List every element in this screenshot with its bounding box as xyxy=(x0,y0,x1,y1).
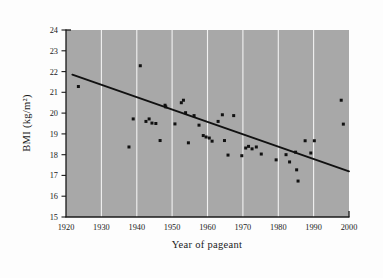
data-point xyxy=(313,139,316,142)
data-point xyxy=(187,141,190,144)
data-point xyxy=(173,122,176,125)
data-point xyxy=(260,153,263,156)
data-point xyxy=(154,122,157,125)
y-tick-label-19: 19 xyxy=(50,130,58,139)
y-tick-label-18: 18 xyxy=(50,151,58,160)
y-tick-label-23: 23 xyxy=(50,47,58,56)
data-point xyxy=(198,124,201,127)
data-point xyxy=(164,105,167,108)
data-point xyxy=(340,99,343,102)
x-axis-tick-labels: 1920 1930 1940 1950 1960 1970 1980 1990 … xyxy=(58,223,358,232)
data-point xyxy=(304,139,307,142)
data-point xyxy=(208,137,211,140)
data-point xyxy=(150,122,153,125)
data-point xyxy=(240,154,243,157)
data-point xyxy=(247,145,250,148)
x-tick-label-1920: 1920 xyxy=(58,223,75,232)
data-point xyxy=(77,85,80,88)
data-point xyxy=(139,64,142,67)
y-tick-label-20: 20 xyxy=(50,109,58,118)
x-tick-label-1960: 1960 xyxy=(199,223,216,232)
x-axis-title: Year of pageant xyxy=(172,239,243,250)
y-tick-label-16: 16 xyxy=(50,192,58,201)
data-point xyxy=(211,140,214,143)
data-point xyxy=(202,134,205,137)
scatter-chart: 24 23 22 21 20 19 18 17 16 15 1920 1930 … xyxy=(0,0,383,278)
data-point xyxy=(144,120,147,123)
y-tick-label-24: 24 xyxy=(50,26,59,35)
data-point xyxy=(342,123,345,126)
data-point xyxy=(232,114,235,117)
data-point xyxy=(275,158,278,161)
data-point xyxy=(127,145,130,148)
data-point xyxy=(244,147,247,150)
data-point xyxy=(217,120,220,123)
figure-container: 24 23 22 21 20 19 18 17 16 15 1920 1930 … xyxy=(0,0,383,278)
x-tick-label-1950: 1950 xyxy=(164,223,181,232)
data-point xyxy=(255,145,258,148)
x-tick-label-2000: 2000 xyxy=(341,223,358,232)
y-tick-label-15: 15 xyxy=(50,213,58,222)
data-point xyxy=(221,113,224,116)
data-point xyxy=(205,136,208,139)
y-tick-label-17: 17 xyxy=(50,171,58,180)
data-point xyxy=(182,99,185,102)
data-point xyxy=(297,180,300,183)
y-axis-title: BMI (kg/m²) xyxy=(21,94,33,152)
x-tick-label-1940: 1940 xyxy=(129,223,146,232)
data-point xyxy=(285,153,288,156)
data-point xyxy=(148,117,151,120)
data-point xyxy=(288,160,291,163)
y-tick-label-21: 21 xyxy=(50,88,58,97)
data-point xyxy=(294,151,297,154)
x-tick-label-1970: 1970 xyxy=(235,223,252,232)
data-point xyxy=(193,114,196,117)
y-tick-label-22: 22 xyxy=(50,68,58,77)
data-point xyxy=(309,152,312,155)
data-point xyxy=(295,168,298,171)
x-tick-label-1980: 1980 xyxy=(270,223,287,232)
data-point xyxy=(184,111,187,114)
x-tick-label-1990: 1990 xyxy=(305,223,322,232)
data-point xyxy=(223,139,226,142)
x-tick-label-1930: 1930 xyxy=(93,223,110,232)
data-point xyxy=(251,147,254,150)
data-point xyxy=(132,117,135,120)
data-point xyxy=(227,154,230,157)
data-point xyxy=(159,139,162,142)
